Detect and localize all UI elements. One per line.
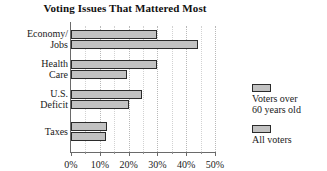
legend-label-line1: All voters [252, 134, 292, 145]
x-axis-tick [129, 152, 130, 156]
x-axis-tick [85, 152, 86, 154]
x-axis-tick-label: 20% [119, 159, 137, 170]
x-axis-tick [71, 152, 72, 156]
x-axis-tick [201, 152, 202, 154]
y-axis-label-taxes: Taxes [2, 126, 68, 137]
x-axis-tick-label: 0% [64, 159, 77, 170]
cat-label-line2: Deficit [2, 99, 68, 110]
x-axis-tick [215, 152, 216, 156]
plot-area: 0%10%20%30%40%50% [71, 26, 215, 152]
x-axis-tick [143, 152, 144, 154]
bar-chart: Voting Issues That Mattered Most Economy… [0, 0, 327, 171]
bar-group-health-care [71, 60, 215, 80]
x-axis-tick [172, 152, 173, 154]
bar-economy-jobs-series-0 [71, 30, 157, 39]
cat-label-line1: Health [41, 58, 68, 69]
bar-economy-jobs-series-1 [71, 40, 198, 49]
x-axis-tick-label: 50% [206, 159, 224, 170]
bar-taxes-series-0 [71, 122, 107, 131]
x-axis-tick-label: 30% [148, 159, 166, 170]
bar-us-deficit-series-1 [71, 100, 129, 109]
legend-entry-all-voters: All voters [252, 125, 327, 145]
chart-title: Voting Issues That Mattered Most [0, 2, 250, 14]
x-axis-tick [100, 152, 101, 156]
bar-taxes-series-1 [71, 132, 106, 141]
bar-health-care-series-0 [71, 60, 157, 69]
cat-label-line2: Jobs [2, 39, 68, 50]
legend-label-all-voters: All voters [252, 134, 327, 145]
legend-swatch-voters-over-60 [252, 84, 271, 92]
y-axis-label-health-care: Health Care [2, 58, 68, 80]
legend-label-voters-over-60: Voters over 60 years old [252, 93, 327, 115]
bar-group-economy-jobs [71, 30, 215, 50]
legend-label-line2: 60 years old [252, 104, 327, 115]
gridline [215, 26, 216, 152]
x-axis-tick-label: 40% [177, 159, 195, 170]
legend-label-line1: Voters over [252, 93, 298, 104]
y-axis-label-economy-jobs: Economy/ Jobs [2, 28, 68, 50]
bar-us-deficit-series-0 [71, 90, 142, 99]
bar-health-care-series-1 [71, 70, 127, 79]
legend-swatch-all-voters [252, 125, 271, 133]
cat-label-line2: Care [2, 69, 68, 80]
y-axis-label-us-deficit: U.S. Deficit [2, 88, 68, 110]
x-axis-tick-label: 10% [91, 159, 109, 170]
cat-label-line1: Economy/ [27, 28, 68, 39]
x-axis-tick [157, 152, 158, 156]
bar-group-us-deficit [71, 90, 215, 110]
cat-label-line1: U.S. [50, 88, 68, 99]
legend-entry-voters-over-60: Voters over 60 years old [252, 84, 327, 115]
cat-label-line1: Taxes [45, 126, 68, 137]
x-axis-tick [186, 152, 187, 156]
bar-group-taxes [71, 122, 215, 142]
x-axis-tick [114, 152, 115, 154]
